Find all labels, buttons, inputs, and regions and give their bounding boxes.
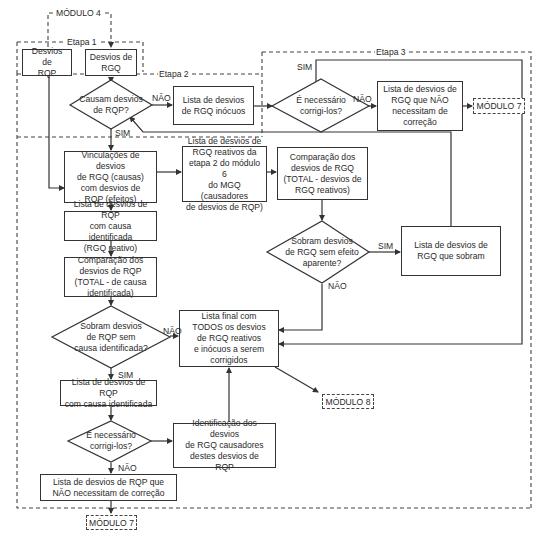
stage-3-label: Etapa 3	[375, 47, 407, 57]
decision-necessario-rgq: É necessário corrigi-los?	[280, 93, 362, 119]
flowchart-canvas: MÓDULO 4 Etapa 1 Etapa 2 Etapa 3 Desvios…	[0, 0, 547, 541]
box-rgq-inocuos: Lista de desvios de RGQ inócuos	[173, 86, 254, 125]
module-7-top-link: MÓDULO 7	[473, 98, 525, 114]
edge-label-yes-necessario-rgq: SIM	[296, 62, 313, 72]
edge-label-yes-sobram-rgq: SIM	[377, 241, 394, 251]
box-rgq-nao-correcao: Lista de desvios de RGQ que NÃO necessit…	[377, 81, 463, 131]
decision-sobram-rqp: Sobram desvios de RQP sem causa identifi…	[52, 320, 170, 354]
box-rqp-nao-correcao: Lista de desvios de RQP que NÃO necessit…	[40, 474, 177, 501]
edge-label-no-causam: NÃO	[151, 93, 172, 103]
edge-label-no-necessario-rgq: NÃO	[352, 94, 373, 104]
module-8-link: MÓDULO 8	[322, 394, 374, 409]
box-rqp-causa-identificada-reativo: Lista de desvios de RQP com causa identi…	[64, 211, 157, 241]
module-7-bottom-link: MÓDULO 7	[86, 515, 137, 530]
box-lista-final: Lista final com TODOS os desvios de RGQ …	[179, 310, 279, 367]
box-desvios-rgq: Desvios de RGQ	[85, 49, 137, 76]
stage-2-label: Etapa 2	[158, 69, 190, 79]
decision-sobram-rgq: Sobram desvios de RGQ sem efeito aparent…	[275, 235, 369, 269]
box-desvios-rqp: Desvios de RQP	[22, 49, 72, 76]
edge-label-no-necessario-rqp: NÃO	[117, 463, 138, 473]
box-vinculacoes: Vinculações de desvios de RGQ (causas) c…	[64, 151, 157, 203]
module-4-label: MÓDULO 4	[55, 8, 102, 18]
edge-label-no-sobram-rgq: NÃO	[327, 281, 348, 291]
edge-label-yes-causam: SIM	[114, 128, 131, 138]
box-rgq-sobram: Lista de desvios de RGQ que sobram	[401, 226, 501, 276]
decision-necessario-rqp: É necessário corrigi-los?	[72, 428, 150, 454]
box-rqp-causa-identificada: Lista de desvios de RQP com causa identi…	[60, 380, 157, 406]
box-rgq-reativos: Lista de desvios de RGQ reativos da etap…	[182, 146, 267, 202]
box-identificacao-rgq: Identificação dos desvios de RGQ causado…	[173, 423, 276, 468]
edge-label-yes-sobram-rqp: SIM	[117, 370, 134, 380]
decision-causam-desvios: Causam desvios de RQP?	[70, 92, 152, 118]
edge-label-no-sobram-rqp: NÃO	[162, 326, 183, 336]
box-comparacao-rqp: Comparação dos desvios de RQP (TOTAL - d…	[64, 257, 157, 297]
stage-1-label: Etapa 1	[66, 37, 98, 47]
box-comparacao-rgq: Comparação dos desvios de RGQ (TOTAL - d…	[277, 147, 368, 200]
